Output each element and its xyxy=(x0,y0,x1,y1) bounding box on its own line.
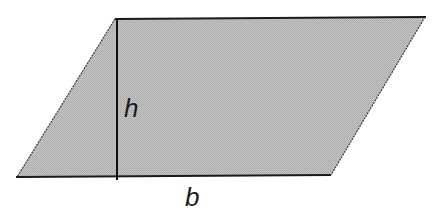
base-label: b xyxy=(185,182,199,212)
parallelogram-diagram: h b xyxy=(0,0,437,215)
parallelogram-shape xyxy=(17,17,425,177)
height-label: h xyxy=(124,93,138,123)
